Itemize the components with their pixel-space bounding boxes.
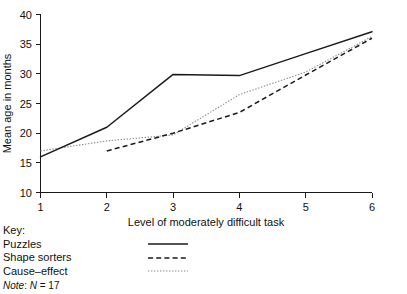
y-tick-label: 15 bbox=[20, 157, 32, 169]
key-entry-cause-effect: Cause–effect bbox=[3, 265, 193, 279]
figure: 10 15 20 25 30 35 40 1 2 3 4 5 6 bbox=[0, 0, 407, 294]
x-tick-label: 6 bbox=[369, 201, 375, 213]
key-sample-dashed-line bbox=[148, 253, 188, 263]
y-tick-label: 35 bbox=[20, 38, 32, 50]
x-axis-ticks bbox=[41, 193, 373, 199]
series-line-cause-effect bbox=[41, 36, 373, 151]
y-tick-label: 25 bbox=[20, 98, 32, 110]
chart-key: Key: Puzzles Shape sorters Cause–effect bbox=[3, 224, 193, 293]
line-chart: 10 15 20 25 30 35 40 1 2 3 4 5 6 bbox=[0, 0, 407, 230]
key-sample-dotted-line bbox=[148, 266, 188, 276]
key-entry-puzzles: Puzzles bbox=[3, 238, 193, 252]
y-tick-label: 10 bbox=[20, 187, 32, 199]
key-entry-label: Cause–effect bbox=[3, 265, 68, 279]
y-tick-label: 40 bbox=[20, 9, 32, 21]
x-tick-label: 2 bbox=[104, 201, 110, 213]
note-label: Note bbox=[3, 280, 24, 291]
x-tick-label: 1 bbox=[37, 201, 43, 213]
note-equals: = bbox=[37, 280, 48, 291]
y-axis-ticks bbox=[36, 15, 41, 193]
x-tick-label: 5 bbox=[303, 201, 309, 213]
key-entry-label: Shape sorters bbox=[3, 251, 71, 265]
chart-note: Note: N = 17 bbox=[3, 279, 193, 293]
y-tick-label: 30 bbox=[20, 68, 32, 80]
note-symbol: N bbox=[30, 280, 37, 291]
key-title: Key: bbox=[3, 224, 193, 238]
key-entry-shape-sorters: Shape sorters bbox=[3, 251, 193, 265]
chart-plot-area: 10 15 20 25 30 35 40 1 2 3 4 5 6 bbox=[0, 0, 407, 230]
x-tick-label: 3 bbox=[170, 201, 176, 213]
series-line-puzzles bbox=[41, 32, 373, 157]
key-sample-solid-line bbox=[148, 239, 188, 249]
y-axis-title: Mean age in months bbox=[1, 53, 13, 153]
y-tick-label: 20 bbox=[20, 127, 32, 139]
note-value: 17 bbox=[48, 280, 59, 291]
x-tick-label: 4 bbox=[236, 201, 242, 213]
key-entry-label: Puzzles bbox=[3, 238, 42, 252]
